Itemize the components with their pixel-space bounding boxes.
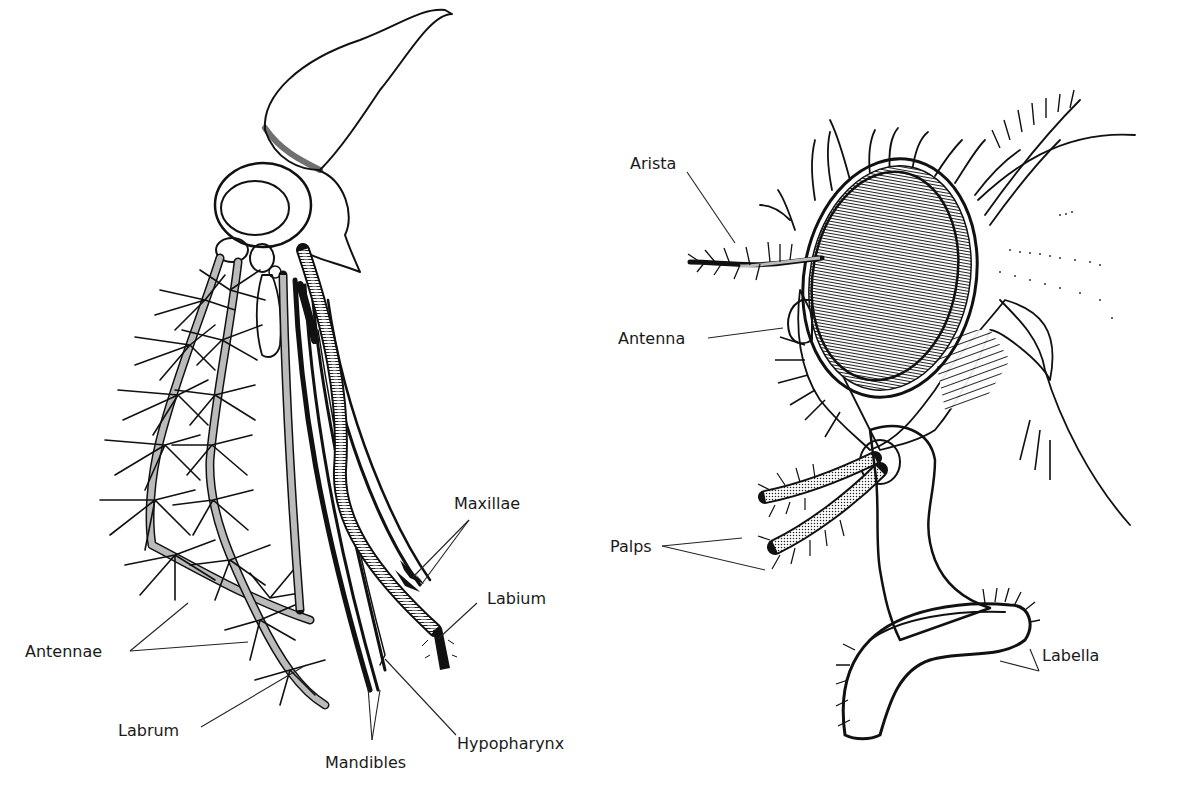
label-arista: Arista	[630, 155, 676, 173]
mosquito-thorax	[265, 10, 452, 170]
mosquito-labella-tip	[433, 628, 450, 670]
label-labium: Labium	[487, 590, 546, 608]
label-maxillae: Maxillae	[454, 495, 520, 513]
mosquito-compound-eye	[221, 181, 289, 235]
label-labella: Labella	[1042, 647, 1099, 665]
label-hypopharynx: Hypopharynx	[457, 735, 564, 753]
diagram-canvas	[0, 0, 1178, 795]
mosquito-palp-club	[257, 275, 281, 357]
label-antennae: Antennae	[25, 643, 102, 661]
mosquito-illustration	[100, 10, 457, 705]
label-palps: Palps	[610, 538, 652, 556]
label-antenna: Antenna	[618, 330, 685, 348]
fly-haustellum	[870, 426, 990, 640]
label-mandibles: Mandibles	[325, 754, 406, 772]
label-labrum: Labrum	[118, 722, 179, 740]
housefly-illustration	[688, 90, 1135, 739]
fly-labella	[843, 604, 1030, 739]
fly-cheek-stipple	[999, 211, 1113, 319]
mosquito-stylets	[295, 280, 430, 690]
